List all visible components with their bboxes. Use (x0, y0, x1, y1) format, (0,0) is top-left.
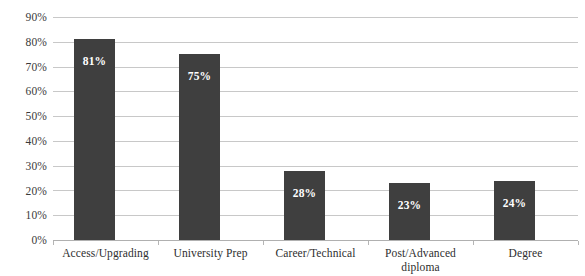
x-axis-tick (53, 241, 54, 245)
x-axis-label-line: diploma (368, 261, 473, 275)
x-axis-tick (263, 241, 264, 245)
x-axis-tick (578, 241, 579, 245)
y-axis-tick-label: 70% (0, 62, 47, 74)
y-axis-tick-label: 90% (0, 12, 47, 24)
x-axis-tick (473, 241, 474, 245)
x-axis-label-line: Post/Advanced (385, 247, 456, 259)
y-axis-tick-label: 80% (0, 37, 47, 49)
x-axis-label-access-upgrading: Access/Upgrading (53, 247, 158, 261)
bar-chart: 90% 80% 70% 60% 50% 40% 30% 20% 10% 0% 8… (0, 0, 585, 276)
x-axis-line (53, 240, 578, 241)
x-axis-label-career-technical: Career/Technical (263, 247, 368, 261)
bar-value-label: 23% (389, 200, 430, 212)
bar-value-label: 75% (179, 71, 220, 83)
bar-value-label: 24% (494, 198, 535, 210)
bar-value-label: 28% (284, 188, 325, 200)
bar-career-technical: 28% (284, 171, 325, 240)
y-axis-tick-label: 50% (0, 111, 47, 123)
x-axis-label-degree: Degree (473, 247, 578, 261)
y-axis-labels: 90% 80% 70% 60% 50% 40% 30% 20% 10% 0% (0, 0, 47, 276)
bar-university-prep: 75% (179, 54, 220, 240)
gridline-70 (53, 67, 578, 68)
x-axis-tick (368, 241, 369, 245)
bar-post-advanced-diploma: 23% (389, 183, 430, 240)
x-axis-tick (158, 241, 159, 245)
bar-access-upgrading: 81% (74, 39, 115, 240)
gridline-60 (53, 91, 578, 92)
bar-degree: 24% (494, 181, 535, 241)
gridline-30 (53, 166, 578, 167)
plot-area: 81% 75% 28% 23% 24% (53, 17, 578, 240)
x-axis-label-line: University Prep (173, 247, 247, 259)
x-axis-label-line: Access/Upgrading (62, 247, 149, 259)
y-axis-tick-label: 60% (0, 86, 47, 98)
gridline-50 (53, 116, 578, 117)
y-axis-tick-label: 10% (0, 210, 47, 222)
y-axis-tick-label: 20% (0, 186, 47, 198)
x-axis-label-line: Degree (509, 247, 543, 259)
bar-value-label: 81% (74, 56, 115, 68)
x-axis-label-line: Career/Technical (276, 247, 356, 259)
y-axis-tick-label: 0% (0, 235, 47, 247)
gridline-90 (53, 17, 578, 18)
gridline-40 (53, 141, 578, 142)
x-axis-label-university-prep: University Prep (158, 247, 263, 261)
y-axis-tick-label: 40% (0, 136, 47, 148)
x-axis-label-post-advanced-diploma: Post/Advanced diploma (368, 247, 473, 274)
y-axis-tick-label: 30% (0, 161, 47, 173)
gridline-80 (53, 42, 578, 43)
